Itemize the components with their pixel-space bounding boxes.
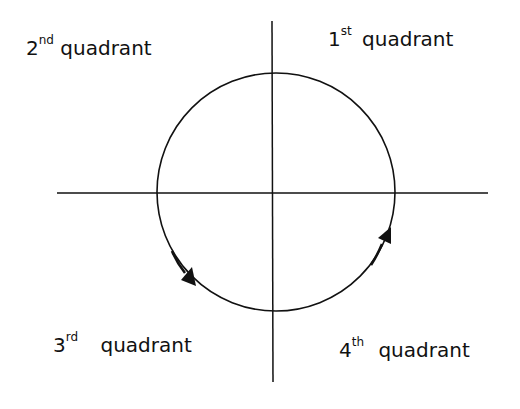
q3-suffix: rd bbox=[66, 330, 78, 344]
q2-suffix: nd bbox=[39, 33, 54, 47]
q3-word: quadrant bbox=[100, 333, 191, 357]
label-second-quadrant: 2nd quadrant bbox=[26, 38, 152, 58]
q1-number: 1 bbox=[328, 27, 341, 51]
arc-emphasis-right bbox=[371, 244, 382, 265]
q2-number: 2 bbox=[26, 36, 39, 60]
q3-number: 3 bbox=[53, 333, 66, 357]
label-third-quadrant: 3rd quadrant bbox=[53, 335, 192, 355]
label-first-quadrant: 1st quadrant bbox=[328, 29, 453, 49]
arc-emphasis-left bbox=[172, 251, 185, 273]
q4-suffix: th bbox=[352, 335, 364, 349]
q1-suffix: st bbox=[341, 24, 352, 38]
q4-number: 4 bbox=[339, 338, 352, 362]
label-fourth-quadrant: 4th quadrant bbox=[339, 340, 470, 360]
q1-word: quadrant bbox=[362, 27, 453, 51]
q2-word: quadrant bbox=[60, 36, 151, 60]
q4-word: quadrant bbox=[378, 338, 469, 362]
y-axis bbox=[272, 21, 273, 382]
